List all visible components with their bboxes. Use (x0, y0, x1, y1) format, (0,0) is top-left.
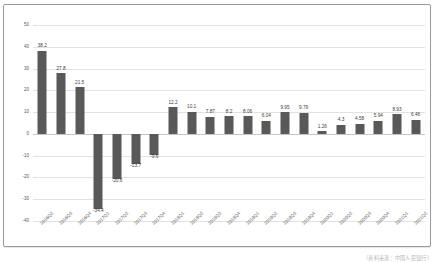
bar[interactable] (131, 134, 140, 164)
bar-slot: 10.1 (182, 25, 201, 221)
y-axis-tick: -40 (22, 219, 29, 224)
bar[interactable] (56, 73, 65, 134)
bar[interactable] (355, 124, 364, 134)
bar[interactable] (150, 134, 159, 155)
y-axis-tick: 40 (24, 44, 29, 49)
bar[interactable] (280, 112, 289, 134)
bar-value-label: 9.95 (280, 106, 289, 111)
bar-slot: 1.26 (313, 25, 332, 221)
bar-slot: 6.04 (257, 25, 276, 221)
y-axis-tick: 50 (24, 23, 29, 28)
bar-slot: 8.93 (388, 25, 407, 221)
y-axis-tick: -30 (22, 197, 29, 202)
bar[interactable] (224, 116, 233, 134)
bar-slot: 9.79 (294, 25, 313, 221)
bar-slot: -9.6 (145, 25, 164, 221)
bar[interactable] (168, 107, 177, 134)
bar-value-label: -34.4 (93, 209, 104, 214)
bar[interactable] (187, 112, 196, 134)
bar-value-label: 4.3 (338, 118, 345, 123)
bar-slot: 8.2 (220, 25, 239, 221)
bar[interactable] (299, 113, 308, 134)
screenshot-root: 50403020100-10-20-30-40 38.227.821.5-34.… (0, 0, 436, 262)
y-axis-tick: 10 (24, 110, 29, 115)
y-axis-tick: -20 (22, 175, 29, 180)
bar-value-label: -9.6 (150, 155, 158, 160)
bar[interactable] (112, 134, 121, 179)
bar[interactable] (392, 114, 401, 133)
bar-value-label: 6.46 (411, 113, 420, 118)
bar-slot: 12.2 (164, 25, 183, 221)
bar-slot: -20.6 (108, 25, 127, 221)
bar-value-label: 6.04 (262, 114, 271, 119)
bar-slot: 7.87 (201, 25, 220, 221)
bar-value-label: 27.8 (56, 67, 65, 72)
bar[interactable] (94, 134, 103, 209)
chart-plot-area: 50403020100-10-20-30-40 38.227.821.5-34.… (33, 25, 425, 221)
bar-slot: -13.7 (126, 25, 145, 221)
bar[interactable] (243, 116, 252, 134)
bar-value-label: 8.93 (392, 108, 401, 113)
bar-slot: 4.58 (350, 25, 369, 221)
bar-series: 38.227.821.5-34.4-20.6-13.7-9.612.210.17… (33, 25, 425, 221)
bar-slot: -34.4 (89, 25, 108, 221)
bar-value-label: 7.87 (206, 110, 215, 115)
bar[interactable] (262, 121, 271, 134)
source-caption: （资料来源：中国人民银行） (363, 254, 432, 261)
bar-value-label: 1.26 (318, 125, 327, 130)
bar-value-label: -20.6 (112, 179, 123, 184)
bar-slot: 38.2 (33, 25, 52, 221)
bar-value-label: 5.94 (374, 114, 383, 119)
bar-slot: 21.5 (70, 25, 89, 221)
bar[interactable] (38, 51, 47, 134)
bar-slot: 6.46 (406, 25, 425, 221)
bar[interactable] (411, 120, 420, 134)
y-axis-tick: -10 (22, 153, 29, 158)
bar-value-label: 9.79 (299, 106, 308, 111)
bar[interactable] (318, 131, 327, 134)
bar-value-label: -13.7 (130, 164, 141, 169)
bar[interactable] (374, 121, 383, 134)
y-axis-tick: 20 (24, 88, 29, 93)
bar-slot: 9.95 (276, 25, 295, 221)
bar-slot: 4.3 (332, 25, 351, 221)
chart-frame: 50403020100-10-20-30-40 38.227.821.5-34.… (3, 4, 431, 247)
bar-slot: 5.94 (369, 25, 388, 221)
bar-value-label: 8.2 (226, 110, 233, 115)
bar-slot: 8.06 (238, 25, 257, 221)
x-axis-tick-labels: 2016Q22016Q32016Q42017Q12017Q22017Q32017… (33, 223, 425, 249)
bar-value-label: 8.06 (243, 110, 252, 115)
bar-value-label: 10.1 (187, 105, 196, 110)
bar-slot: 27.8 (52, 25, 71, 221)
bar-value-label: 4.58 (355, 117, 364, 122)
bar-value-label: 12.2 (168, 101, 177, 106)
bar[interactable] (75, 87, 84, 134)
bar[interactable] (206, 117, 215, 134)
bar-value-label: 21.5 (75, 81, 84, 86)
bar[interactable] (336, 125, 345, 134)
y-axis-tick: 30 (24, 66, 29, 71)
y-axis-tick: 0 (26, 132, 29, 137)
bar-value-label: 38.2 (38, 44, 47, 49)
